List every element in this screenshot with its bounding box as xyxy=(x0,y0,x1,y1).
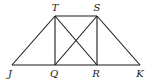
segments xyxy=(12,16,140,65)
label-J: J xyxy=(6,68,13,79)
geometry-diagram: T S J Q R K xyxy=(0,0,153,80)
segment-JT xyxy=(12,16,55,65)
label-T: T xyxy=(52,2,60,13)
label-S: S xyxy=(94,2,101,13)
segment-SK xyxy=(97,16,140,65)
vertex-labels: T S J Q R K xyxy=(6,2,144,79)
label-Q: Q xyxy=(50,68,58,79)
label-R: R xyxy=(91,68,100,79)
label-K: K xyxy=(135,68,144,79)
